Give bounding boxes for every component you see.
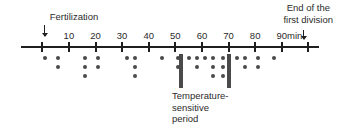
data-point — [83, 65, 87, 69]
ts-caption-line2: sensitive — [172, 102, 229, 114]
ts-caption-line3: period — [172, 113, 229, 125]
axis-tick-fertilization — [41, 42, 43, 52]
data-point — [160, 56, 164, 60]
time-axis-line — [21, 46, 319, 48]
axis-tick-label-90: 90 — [276, 30, 287, 41]
data-point — [133, 74, 137, 78]
data-point — [96, 65, 100, 69]
data-point — [43, 56, 47, 60]
end-of-division-label-line2: first division — [283, 14, 333, 25]
axis-units-label: min — [287, 30, 302, 41]
data-point — [221, 65, 225, 69]
data-point — [272, 56, 276, 60]
fertilization-label: Fertilization — [50, 11, 99, 22]
data-point — [256, 65, 260, 69]
data-point — [195, 65, 199, 69]
data-point — [211, 74, 215, 78]
data-point — [256, 56, 260, 60]
axis-tick-60 — [201, 42, 203, 52]
axis-tick-label-30: 30 — [117, 30, 128, 41]
data-point — [133, 65, 137, 69]
axis-tick-50 — [174, 42, 176, 52]
end-of-division-label-line1: End of the — [287, 2, 330, 13]
data-point — [243, 65, 247, 69]
end-of-division-arrow-icon — [303, 30, 304, 39]
data-point — [235, 56, 239, 60]
ts-caption-line1: Temperature- — [172, 90, 229, 102]
axis-tick-10 — [68, 42, 70, 52]
fertilization-arrow-icon — [44, 25, 45, 36]
temperature-sensitive-period-caption: Temperature- sensitive period — [172, 90, 229, 125]
data-point — [195, 56, 199, 60]
data-point — [203, 56, 207, 60]
data-point — [56, 65, 60, 69]
data-point — [133, 56, 137, 60]
axis-tick-label-60: 60 — [197, 30, 208, 41]
data-point — [221, 74, 225, 78]
data-point — [83, 74, 87, 78]
data-point — [96, 56, 100, 60]
data-point — [243, 56, 247, 60]
axis-tick-label-20: 20 — [90, 30, 101, 41]
axis-tick-70 — [228, 42, 230, 52]
data-point — [83, 56, 87, 60]
data-point — [211, 56, 215, 60]
axis-tick-label-50: 50 — [170, 30, 181, 41]
axis-tick-30 — [121, 42, 123, 52]
axis-tick-90 — [281, 42, 283, 52]
data-point — [221, 56, 225, 60]
axis-tick-label-70: 70 — [223, 30, 234, 41]
ts-period-end-bar — [227, 54, 231, 88]
axis-tick-40 — [148, 42, 150, 52]
axis-tick-end-of-first-division — [307, 42, 309, 52]
ts-period-start-bar — [179, 54, 183, 88]
data-point — [125, 56, 129, 60]
axis-tick-label-40: 40 — [143, 30, 154, 41]
data-point — [56, 56, 60, 60]
axis-tick-20 — [95, 42, 97, 52]
temperature-sensitive-period-timeline: Fertilization End of the first division … — [0, 0, 339, 137]
axis-tick-label-80: 80 — [250, 30, 261, 41]
axis-tick-label-10: 10 — [64, 30, 75, 41]
data-point — [187, 56, 191, 60]
data-point — [211, 65, 215, 69]
axis-tick-80 — [254, 42, 256, 52]
